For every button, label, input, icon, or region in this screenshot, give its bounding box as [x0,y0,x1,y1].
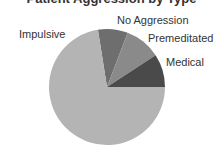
label-medical: Medical [166,57,204,68]
label-premeditated: Premeditated [148,33,213,44]
pie-slices [49,29,165,145]
label-impulsive: Impulsive [19,29,65,40]
label-no-aggression: No Aggression [117,15,189,26]
pie-chart-svg [0,0,223,154]
